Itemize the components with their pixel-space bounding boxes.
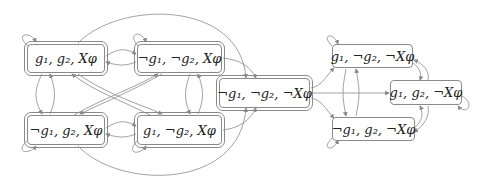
node-label: g₁, g₂, Xφ <box>35 51 97 66</box>
node-label: g₁, g₂, ¬Xφ <box>390 85 463 100</box>
node-label: ¬g₁, ¬g₂, Xφ <box>138 51 222 66</box>
state-node-A: g₁, g₂, Xφ <box>27 44 105 73</box>
state-node-G: g₁, g₂, ¬Xφ <box>390 80 462 105</box>
node-label: ¬g₁, g₂, Xφ <box>30 123 103 138</box>
node-label: ¬g₁, g₂, ¬Xφ <box>332 122 416 137</box>
state-node-E: ¬g₁, ¬g₂, ¬Xφ <box>219 78 310 108</box>
state-node-D: g₁, ¬g₂, Xφ <box>137 115 222 145</box>
state-node-H: ¬g₁, g₂, ¬Xφ <box>332 117 415 141</box>
state-node-C: ¬g₁, g₂, Xφ <box>27 115 105 145</box>
node-label: g₁, ¬g₂, ¬Xφ <box>331 49 415 64</box>
state-node-B: ¬g₁, ¬g₂, Xφ <box>137 44 222 73</box>
node-label: g₁, ¬g₂, Xφ <box>143 123 216 138</box>
state-node-F: g₁, ¬g₂, ¬Xφ <box>332 44 413 68</box>
node-label: ¬g₁, ¬g₂, ¬Xφ <box>217 86 312 101</box>
